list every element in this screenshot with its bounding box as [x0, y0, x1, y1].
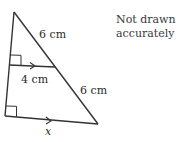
base-line: [5, 116, 98, 124]
right-angle-marker-middle: [10, 55, 21, 65]
parallel-arrow-icon-base: [46, 117, 51, 124]
middle-parallel-line: [10, 65, 56, 67]
label-lower-6cm: 6 cm: [80, 84, 108, 97]
label-4cm: 4 cm: [21, 73, 49, 86]
note-line-1: Not drawn: [116, 13, 186, 27]
note-line-2: accurately: [116, 27, 186, 41]
label-upper-6cm: 6 cm: [39, 28, 67, 41]
label-x: x: [45, 125, 52, 138]
not-drawn-accurately-note: Not drawn accurately: [116, 13, 186, 41]
left-side: [5, 12, 14, 116]
right-angle-marker-bottom: [6, 106, 17, 117]
